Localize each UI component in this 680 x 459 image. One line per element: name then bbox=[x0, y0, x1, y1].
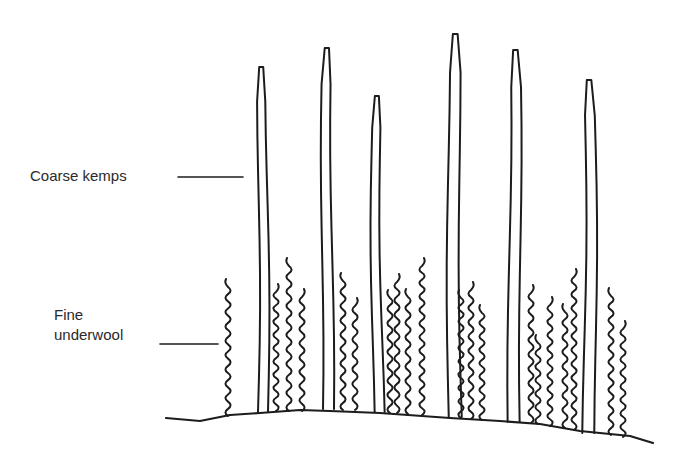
fine-underwool-fiber bbox=[387, 290, 392, 413]
fine-underwool-fiber bbox=[562, 304, 567, 428]
fine-underwool-fiber bbox=[225, 279, 230, 416]
fine-underwool-fiber bbox=[352, 298, 357, 410]
fine-underwool-fiber bbox=[394, 274, 399, 413]
fine-underwool-fiber bbox=[286, 258, 291, 411]
fine-underwool-fiber bbox=[620, 321, 625, 437]
label-fine-underwool-line-2: underwool bbox=[54, 326, 123, 344]
fine-underwool-fiber bbox=[468, 282, 473, 419]
fine-underwool-fiber bbox=[547, 297, 552, 426]
fine-underwool-fiber bbox=[608, 288, 613, 435]
label-fine-underwool-line-1: Fine bbox=[54, 306, 123, 324]
fine-underwool-fiber bbox=[419, 258, 424, 415]
wool-fiber-diagram bbox=[0, 0, 680, 459]
fine-underwool-fiber bbox=[535, 335, 540, 424]
skin-surface-line bbox=[166, 410, 653, 443]
fine-underwool-fiber bbox=[299, 289, 304, 411]
coarse-kemp-fiber bbox=[507, 50, 521, 422]
coarse-kemp-fiber bbox=[321, 48, 334, 409]
fine-underwool-fiber bbox=[405, 289, 410, 414]
fine-underwool-fiber bbox=[571, 269, 576, 430]
label-coarse-kemps: Coarse kemps bbox=[30, 167, 127, 185]
coarse-kemp-fiber bbox=[370, 96, 384, 412]
skin-line bbox=[166, 410, 653, 443]
coarse-kemp-fibers bbox=[257, 34, 597, 433]
fine-underwool-fiber bbox=[479, 305, 484, 420]
label-coarse-kemps-text: Coarse kemps bbox=[30, 167, 127, 184]
coarse-kemp-fiber bbox=[582, 80, 597, 433]
coarse-kemp-fiber bbox=[257, 67, 269, 412]
fine-underwool-fiber bbox=[528, 285, 533, 423]
fine-underwool-fiber bbox=[273, 284, 278, 411]
fine-underwool-fiber bbox=[340, 273, 345, 410]
label-fine-underwool: Fine underwool bbox=[54, 306, 123, 344]
